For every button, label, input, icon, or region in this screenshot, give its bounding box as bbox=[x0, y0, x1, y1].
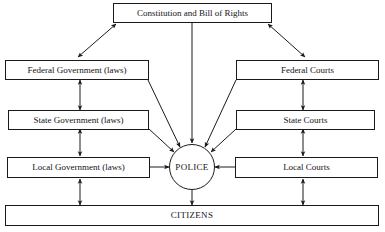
node-federal-government[interactable]: Federal Government (laws) bbox=[6, 61, 149, 80]
diagram-canvas: Constitution and Bill of Rights Federal … bbox=[0, 0, 385, 232]
node-local-government-label: Local Government (laws) bbox=[32, 162, 124, 172]
node-local-courts-label: Local Courts bbox=[283, 162, 330, 172]
node-local-government[interactable]: Local Government (laws) bbox=[8, 158, 150, 178]
diagram-svg: Constitution and Bill of Rights Federal … bbox=[0, 0, 385, 232]
node-federal-courts-label: Federal Courts bbox=[281, 65, 335, 75]
node-police[interactable]: POLICE bbox=[170, 145, 215, 190]
node-state-government-label: State Government (laws) bbox=[34, 115, 124, 125]
node-federal-government-label: Federal Government (laws) bbox=[28, 65, 127, 75]
node-citizens-label: CITIZENS bbox=[171, 210, 213, 220]
node-police-label: POLICE bbox=[175, 162, 209, 172]
node-constitution[interactable]: Constitution and Bill of Rights bbox=[114, 4, 272, 23]
node-citizens[interactable]: CITIZENS bbox=[6, 206, 379, 226]
node-local-courts[interactable]: Local Courts bbox=[236, 158, 378, 178]
edge-state-courts-police bbox=[211, 129, 236, 152]
node-state-courts-label: State Courts bbox=[283, 115, 328, 125]
edge-federal-government-police bbox=[148, 80, 180, 147]
edge-federal-courts-police bbox=[205, 80, 236, 147]
node-constitution-label: Constitution and Bill of Rights bbox=[137, 8, 249, 18]
edge-state-government-police bbox=[149, 129, 174, 152]
edge-constitution-federal-government bbox=[78, 24, 116, 57]
node-state-courts[interactable]: State Courts bbox=[237, 111, 375, 130]
node-state-government[interactable]: State Government (laws) bbox=[9, 111, 149, 130]
node-federal-courts[interactable]: Federal Courts bbox=[237, 61, 379, 80]
edge-constitution-federal-courts bbox=[268, 24, 305, 57]
